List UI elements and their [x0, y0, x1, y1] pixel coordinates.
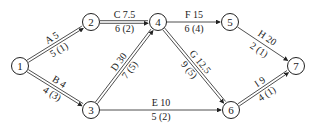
edge-label-bottom: 5 (2): [151, 112, 170, 122]
node-5: 5: [221, 13, 239, 31]
edge-label-bottom: 6 (4): [184, 24, 203, 34]
node-3: 3: [82, 101, 100, 119]
node-2: 2: [82, 13, 100, 31]
network-diagram: A 55 (1)B 44 (3)C 7.56 (2)D 307 (5)E 105…: [0, 0, 313, 132]
edge-label-top: F 15: [185, 10, 203, 20]
edge-label-top: E 10: [152, 98, 171, 108]
edge-d: [95, 29, 150, 102]
node-7: 7: [287, 57, 305, 75]
node-6: 6: [222, 101, 240, 119]
node-1: 1: [11, 57, 29, 75]
edge-label-bottom: 6 (2): [115, 24, 134, 34]
edge-label-top: C 7.5: [114, 10, 136, 20]
node-4: 4: [149, 13, 167, 31]
